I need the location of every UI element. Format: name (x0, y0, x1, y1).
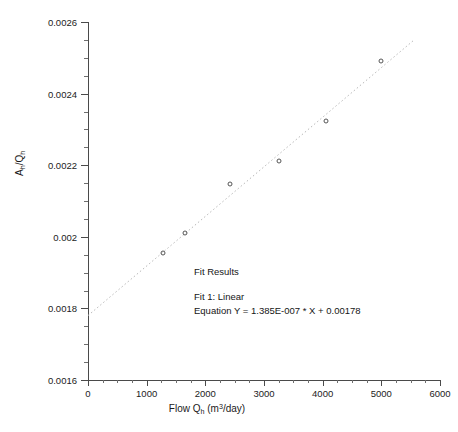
x-tick-minor (308, 380, 309, 383)
fit-results-line-2: Equation Y = 1.385E-007 * X + 0.00178 (194, 304, 361, 318)
x-tick-label: 3000 (253, 388, 274, 399)
fit-results-heading: Fit Results (194, 265, 361, 279)
x-tick-label: 4000 (312, 388, 333, 399)
y-tick-label: 0.0026 (48, 17, 77, 28)
y-tick-major (81, 94, 88, 95)
data-point-marker (183, 230, 188, 235)
x-tick-label: 6000 (429, 388, 450, 399)
x-tick-minor (367, 380, 368, 383)
fit-results-line-1: Fit 1: Linear (194, 290, 361, 304)
x-tick-minor (176, 380, 177, 383)
x-axis-title: Flow Qh (m3/day) (0, 402, 458, 416)
x-tick-major (323, 380, 324, 386)
y-tick-label: 0.002 (53, 231, 77, 242)
y-axis-title-mid: /Q (14, 155, 25, 166)
x-axis-title-post: /day) (223, 403, 245, 414)
x-tick-minor (191, 380, 192, 383)
y-axis-title-sub-2: h (18, 151, 27, 155)
y-tick-major (81, 308, 88, 309)
y-tick-major (81, 380, 88, 381)
chart-figure: Ah/Qh 0.00160.00180.0020.00220.00240.002… (0, 0, 458, 432)
y-axis-title-text: A (14, 169, 25, 176)
y-tick-label: 0.0018 (48, 303, 77, 314)
x-tick-major (205, 380, 206, 386)
x-tick-minor (293, 380, 294, 383)
x-tick-label: 5000 (371, 388, 392, 399)
x-tick-major (440, 380, 441, 386)
x-tick-minor (337, 380, 338, 383)
x-tick-minor (235, 380, 236, 383)
x-tick-minor (425, 380, 426, 383)
y-tick-major (81, 237, 88, 238)
x-tick-minor (117, 380, 118, 383)
x-axis-title-mid: (m (204, 403, 218, 414)
x-tick-minor (411, 380, 412, 383)
data-point-marker (160, 250, 165, 255)
x-tick-minor (352, 380, 353, 383)
y-tick-label: 0.0022 (48, 160, 77, 171)
y-tick-major (81, 165, 88, 166)
y-tick-label: 0.0016 (48, 375, 77, 386)
y-axis-title-sub-1: h (18, 165, 27, 169)
x-tick-major (381, 380, 382, 386)
data-point-marker (227, 181, 232, 186)
x-tick-minor (103, 380, 104, 383)
x-tick-minor (279, 380, 280, 383)
data-point-marker (276, 158, 281, 163)
fit-results-annotation: Fit Results Fit 1: Linear Equation Y = 1… (194, 265, 361, 317)
x-tick-major (147, 380, 148, 386)
data-point-marker (324, 119, 329, 124)
fit-line (88, 22, 440, 380)
x-tick-minor (132, 380, 133, 383)
y-tick-major (81, 22, 88, 23)
x-tick-minor (161, 380, 162, 383)
y-axis-title: Ah/Qh (14, 151, 27, 176)
fit-results-spacer (194, 279, 361, 290)
x-tick-label: 1000 (136, 388, 157, 399)
x-tick-label: 2000 (195, 388, 216, 399)
plot-area (88, 22, 440, 380)
x-axis-title-text: Flow Q (169, 403, 201, 414)
x-tick-major (264, 380, 265, 386)
x-tick-minor (249, 380, 250, 383)
x-tick-minor (396, 380, 397, 383)
x-tick-major (88, 380, 89, 386)
x-tick-label: 0 (85, 388, 90, 399)
data-point-marker (379, 58, 384, 63)
y-tick-label: 0.0024 (48, 88, 77, 99)
x-tick-minor (220, 380, 221, 383)
